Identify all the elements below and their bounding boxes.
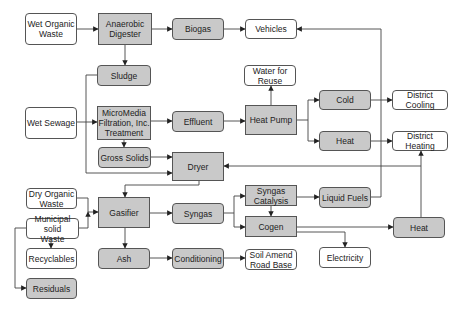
node-label: District Cooling [393,90,447,110]
node-label: Cogen [258,222,283,232]
node-cold: Cold [319,90,371,110]
node-vehicles: Vehicles [245,19,297,39]
node-label: Anaerobic Digester [106,19,144,39]
node-sludge: Sludge [97,65,151,86]
node-heat-bottom: Heat [393,217,445,238]
node-syngas: Syngas [172,203,224,224]
node-label: Dry Organic Waste [29,189,74,209]
node-district-cooling: District Cooling [392,90,448,110]
node-label: Soil Amend Road Base [250,250,293,270]
connector-syngas-to-syngas-catalysis [224,196,245,213]
node-label: Heat Pump [250,115,293,125]
node-gross-solids: Gross Solids [98,147,151,168]
node-residuals: Residuals [26,278,77,299]
node-syngas-catalysis: Syngas Catalysis [245,185,297,206]
node-soil-amend-road-base: Soil Amend Road Base [245,249,297,270]
node-heat-pump: Heat Pump [245,105,297,135]
node-label: Biogas [185,24,211,34]
connector-dry-organic-waste-to-gasifier [77,198,98,212]
node-label: Recyclables [29,254,75,264]
node-label: Effluent [184,117,213,127]
node-label: Electricity [327,253,363,263]
process-flow-diagram: Wet Organic WasteAnaerobic DigesterBioga… [0,0,461,310]
node-label: Conditioning [174,254,221,264]
node-liquid-fuels: Liquid Fuels [319,187,371,208]
node-water-for-reuse: Water for Reuse [244,65,296,86]
node-ash: Ash [98,248,150,269]
node-label: Cold [336,95,353,105]
node-label: Wet Organic Waste [27,19,74,39]
node-label: Gasifier [109,208,138,218]
node-label: Ash [117,254,132,264]
node-label: Gross Solids [100,153,148,163]
node-label: MicroMedia Filtration, Inc. Treatment [98,108,149,138]
node-label: Municipal solid Waste [27,214,78,244]
node-label: Heat [336,136,354,146]
node-label: Wet Sewage [27,118,75,128]
node-dryer: Dryer [172,152,224,181]
node-gasifier: Gasifier [98,197,150,228]
node-micromedia: MicroMedia Filtration, Inc. Treatment [97,106,151,140]
connector-dryer-to-gasifier [125,181,199,197]
node-cogen: Cogen [245,216,297,237]
node-label: Vehicles [255,24,287,34]
node-municipal-solid-waste: Municipal solid Waste [26,218,79,239]
node-label: Syngas Catalysis [254,186,288,206]
node-label: District Heating [393,131,447,151]
node-label: Heat [410,223,428,233]
node-district-heating: District Heating [392,131,448,151]
connector-syngas-to-cogen [234,213,245,227]
node-electricity: Electricity [319,247,371,268]
node-wet-organic-waste: Wet Organic Waste [25,13,77,45]
connector-cogen-to-electricity [297,232,345,247]
node-label: Sludge [111,71,137,81]
node-label: Dryer [188,162,209,172]
connector-municipal-solid-waste-to-residuals [15,228,26,288]
node-label: Residuals [33,284,70,294]
connector-liquid-fuels-to-vehicles [297,29,381,197]
node-label: Water for Reuse [253,66,288,86]
node-effluent: Effluent [172,111,224,132]
node-anaerobic-digester: Anaerobic Digester [98,13,152,45]
node-dry-organic-waste: Dry Organic Waste [26,188,77,209]
node-recyclables: Recyclables [26,248,77,269]
node-label: Liquid Fuels [322,193,368,203]
node-biogas: Biogas [172,18,224,40]
connector-heat-pump-to-cold [297,100,319,120]
connector-heat-pump-to-heat-top [308,120,319,141]
node-heat-top: Heat [319,131,371,151]
node-label: Syngas [184,209,212,219]
node-conditioning: Conditioning [172,248,224,269]
connector-municipal-solid-waste-to-gasifier [79,212,88,228]
node-wet-sewage: Wet Sewage [25,107,77,139]
